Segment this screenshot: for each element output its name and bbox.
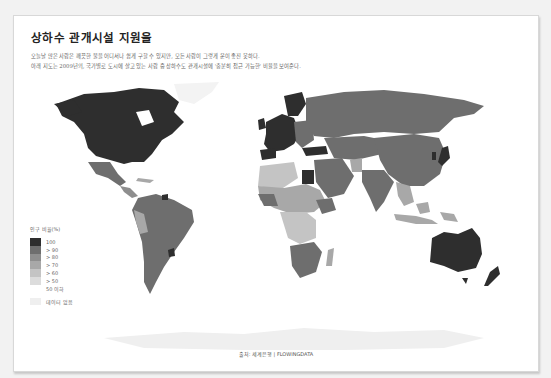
description-line-1: 오늘날 많은 사람은 깨끗한 물을 어디서나 쉽게 구할 수 있지만, 모든 사…	[31, 51, 301, 61]
region-guiana	[162, 194, 168, 200]
region-scandinavia	[284, 92, 306, 116]
legend-item-below-50: 50 이하	[30, 285, 73, 293]
region-borneo	[416, 202, 430, 214]
description: 오늘날 많은 사람은 깨끗한 물을 어디서나 쉽게 구할 수 있지만, 모든 사…	[31, 51, 301, 71]
legend-swatch	[30, 298, 41, 306]
source-credit: 출처: 세계은행 | FLOWINGDATA	[14, 350, 538, 357]
region-central-america	[120, 186, 138, 198]
legend-item-90: > 90	[30, 246, 73, 254]
region-greenland	[174, 82, 219, 104]
region-mexico	[88, 162, 126, 186]
page-title: 상하수 관개시설 지원율	[31, 29, 153, 45]
region-north-africa	[258, 162, 298, 190]
region-antarctica	[104, 328, 484, 350]
region-indonesia	[394, 214, 438, 224]
legend-swatch	[30, 269, 41, 277]
legend-swatch	[30, 285, 41, 293]
region-egypt	[302, 170, 314, 184]
region-tasmania	[462, 278, 468, 284]
legend-swatch	[30, 277, 41, 285]
world-choropleth-map	[44, 82, 504, 352]
region-turkey	[302, 146, 328, 156]
map-legend: 인구 비율(%) 100 > 90 > 80 > 70 > 60 > 50 50…	[30, 225, 73, 305]
legend-swatch	[30, 261, 41, 269]
map-card: 상하수 관개시설 지원율 오늘날 많은 사람은 깨끗한 물을 어디서나 쉽게 구…	[13, 15, 539, 372]
region-southern-africa	[290, 242, 322, 278]
legend-item-80: > 80	[30, 254, 73, 262]
region-uk	[258, 118, 266, 130]
region-central-africa	[280, 212, 316, 244]
region-korea	[432, 152, 436, 160]
region-madagascar	[326, 248, 334, 266]
legend-label: > 80	[46, 254, 58, 260]
legend-item-no-data: 데이터 없음	[30, 298, 73, 306]
legend-label: > 70	[46, 262, 58, 268]
region-india	[362, 170, 394, 212]
legend-swatch	[30, 246, 41, 254]
region-iberia	[260, 148, 276, 160]
legend-label: > 90	[46, 247, 58, 253]
region-russia	[306, 90, 484, 138]
legend-item-100: 100	[30, 238, 73, 246]
region-europe-west	[264, 114, 300, 152]
region-png	[440, 212, 458, 222]
region-afghanistan	[350, 158, 362, 172]
region-ethiopia	[316, 198, 336, 214]
legend-label: 50 이하	[46, 285, 64, 292]
legend-label: 데이터 없음	[46, 298, 73, 305]
legend-label: > 60	[46, 270, 58, 276]
legend-label: 100	[46, 239, 56, 245]
region-north-america	[56, 88, 184, 164]
legend-swatch	[30, 238, 41, 246]
legend-item-50: > 50	[30, 277, 73, 285]
region-new-zealand	[484, 266, 500, 286]
region-australia	[430, 228, 482, 272]
description-line-2: 아래 지도는 2009년의, 국가별로 도시에 살고 있는 사람 중 상하수도 …	[31, 61, 301, 71]
legend-item-60: > 60	[30, 269, 73, 277]
legend-title: 인구 비율(%)	[30, 225, 73, 232]
legend-swatch	[30, 254, 41, 262]
legend-label: > 50	[46, 278, 58, 284]
legend-item-70: > 70	[30, 261, 73, 269]
region-south-america	[132, 194, 194, 294]
